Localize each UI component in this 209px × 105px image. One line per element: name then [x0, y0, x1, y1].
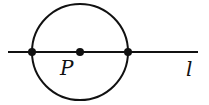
label-l: l	[186, 57, 192, 81]
diagram-canvas: P l	[0, 0, 209, 105]
left-intersection-point	[28, 48, 36, 56]
center-point-p	[76, 48, 84, 56]
right-intersection-point	[124, 48, 132, 56]
label-p: P	[59, 56, 74, 80]
